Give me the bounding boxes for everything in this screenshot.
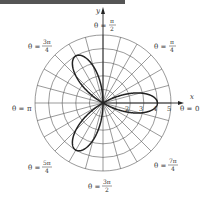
svg-text:θ =: θ = <box>180 105 192 113</box>
svg-text:4: 4 <box>45 46 49 53</box>
label-theta-0: θ = 0 <box>180 105 199 113</box>
svg-text:7π: 7π <box>169 157 177 164</box>
label-theta-pi: θ = π <box>12 105 32 113</box>
label-theta-5pi-4: θ = 5π 4 <box>28 159 52 174</box>
svg-text:θ =: θ = <box>154 43 166 51</box>
svg-text:π: π <box>110 17 114 24</box>
tick-4: 4 <box>153 105 157 113</box>
svg-text:3π: 3π <box>43 38 51 45</box>
label-theta-3pi-2: θ = 3π 2 <box>88 178 112 193</box>
label-theta-7pi-4: θ = 7π 4 <box>154 157 178 172</box>
polar-plot: y x 2 3 4 5 θ = π 2 θ = π 4 θ = 3π 4 θ =… <box>0 0 206 206</box>
x-axis-label: x <box>190 93 194 101</box>
label-theta-3pi-4: θ = 3π 4 <box>28 38 52 53</box>
tick-3: 3 <box>139 105 143 113</box>
svg-text:θ =: θ = <box>94 22 106 30</box>
svg-text:θ =: θ = <box>154 162 166 170</box>
svg-text:0: 0 <box>195 105 199 113</box>
svg-text:π: π <box>170 38 174 45</box>
svg-text:4: 4 <box>170 46 174 53</box>
svg-text:θ =: θ = <box>28 164 40 172</box>
label-theta-pi-4: θ = π 4 <box>154 38 176 53</box>
svg-text:θ =: θ = <box>88 183 100 191</box>
svg-text:4: 4 <box>45 167 49 174</box>
y-axis-arrow-icon <box>101 7 105 14</box>
y-axis-label: y <box>95 7 101 15</box>
svg-text:θ =: θ = <box>12 105 24 113</box>
svg-text:3π: 3π <box>103 178 111 185</box>
tick-2: 2 <box>125 105 129 113</box>
svg-text:θ =: θ = <box>28 43 40 51</box>
svg-text:π: π <box>27 105 32 113</box>
svg-text:2: 2 <box>105 186 109 193</box>
svg-text:5π: 5π <box>43 159 51 166</box>
svg-text:4: 4 <box>171 165 175 172</box>
label-theta-pi-2: θ = π 2 <box>94 17 116 32</box>
svg-text:2: 2 <box>110 25 114 32</box>
tick-5: 5 <box>167 105 171 113</box>
